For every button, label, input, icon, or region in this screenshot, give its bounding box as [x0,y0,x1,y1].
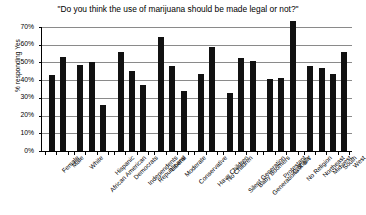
bar [307,66,313,151]
bar [330,74,336,151]
bar [267,79,273,151]
y-tick-label: 50% [4,59,34,66]
bar [198,74,204,151]
bar [140,85,146,151]
y-tick-label: 20% [4,112,34,119]
bar [49,75,55,151]
bar [60,57,66,151]
x-tick-label: White [88,154,105,171]
y-tick-label: 0% [4,148,34,155]
y-tick-label: 70% [4,24,34,31]
bar [278,78,284,152]
bar [77,65,83,151]
bar [227,93,233,151]
y-tick-label: 60% [4,41,34,48]
y-tick-label: 30% [4,94,34,101]
bar [129,71,135,151]
bar-series [42,27,352,151]
bar [290,21,296,151]
bar [169,66,175,151]
bar [250,61,256,151]
plot-area: 0%10%20%30%40%50%60%70% [41,27,352,152]
bar [181,91,187,151]
bar [238,58,244,151]
y-tick-label: 10% [4,130,34,137]
chart-title: "Do you think the use of marijuana shoul… [0,4,356,14]
bar [100,105,106,151]
y-tick-label: 40% [4,77,34,84]
x-axis-labels: FemaleMaleWhiteAfrican AmericanHispanicD… [41,152,351,214]
bar [319,68,325,151]
bar [118,52,124,151]
bar [341,52,347,151]
bar [89,62,95,151]
bar [158,37,164,151]
bar [209,47,215,151]
